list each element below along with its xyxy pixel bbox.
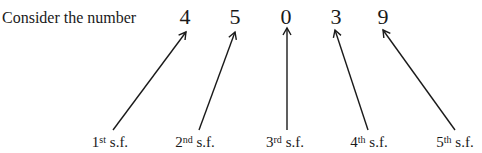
arrow-1: [113, 32, 186, 130]
arrow-4: [335, 30, 368, 130]
arrow-2: [199, 32, 235, 130]
label-4th-sf: 4th s.f.: [350, 133, 387, 151]
arrow-5: [383, 30, 455, 130]
label-5th-sf: 5th s.f.: [436, 133, 473, 151]
label-3rd-sf: 3rd s.f.: [266, 133, 304, 151]
label-1st-sf: 1st s.f.: [92, 133, 128, 151]
label-2nd-sf: 2nd s.f.: [175, 133, 215, 151]
arrows-diagram: [0, 0, 482, 153]
